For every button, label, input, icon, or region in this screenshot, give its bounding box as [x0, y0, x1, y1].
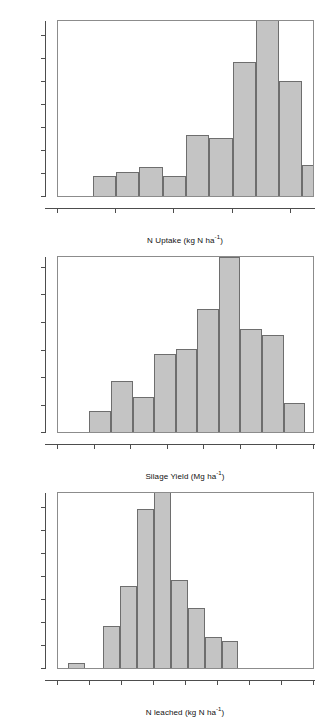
y-axis-line — [45, 257, 46, 433]
bar — [188, 608, 205, 669]
chart-panel-n-uptake: N Uptake (kg N ha-1) — [0, 0, 324, 237]
bar — [93, 176, 116, 197]
x-axis-tick — [94, 445, 95, 449]
y-axis-tick — [41, 127, 45, 128]
x-axis-tick — [57, 681, 58, 685]
x-axis-title: N leached (kg N ha-1) — [37, 706, 324, 717]
plot-area-n-leached: N leached (kg N ha-1) — [0, 474, 324, 711]
y-axis-tick — [41, 507, 45, 508]
bar — [262, 335, 284, 433]
y-axis-line — [45, 493, 46, 669]
y-axis-tick — [41, 35, 45, 36]
y-axis-tick — [41, 576, 45, 577]
y-axis-tick — [41, 150, 45, 151]
bar — [89, 411, 111, 433]
x-axis-tick — [57, 209, 58, 213]
bar — [68, 663, 85, 669]
x-axis-tick — [89, 681, 90, 685]
bar — [133, 397, 155, 433]
bar — [163, 176, 186, 197]
x-axis-line — [45, 444, 315, 445]
bar — [137, 509, 154, 669]
x-axis-tick — [313, 681, 314, 685]
chart-panel-n-leached: N leached (kg N ha-1) — [0, 474, 324, 711]
x-axis-tick — [173, 209, 174, 213]
x-axis-tick — [249, 681, 250, 685]
plot-frame — [57, 20, 314, 197]
x-axis-line — [45, 208, 315, 209]
bar — [176, 349, 198, 433]
bar — [120, 586, 137, 669]
x-axis-tick — [217, 681, 218, 685]
bar — [111, 381, 133, 433]
y-axis-tick — [41, 267, 45, 268]
bar — [240, 329, 262, 433]
bar — [154, 354, 176, 433]
y-axis-tick — [41, 599, 45, 600]
x-axis-title-text: N leached (kg N ha — [146, 708, 216, 717]
y-axis-tick — [41, 432, 45, 433]
bar — [284, 403, 306, 433]
y-axis-tick — [41, 173, 45, 174]
x-axis-tick — [203, 445, 204, 449]
bar — [154, 492, 171, 669]
y-axis-tick — [41, 530, 45, 531]
bar — [233, 62, 256, 197]
chart-panel-silage-yield: Silage Yield (Mg ha-1) — [0, 237, 324, 474]
bar — [116, 172, 139, 198]
y-axis-tick — [41, 294, 45, 295]
x-axis-tick — [121, 681, 122, 685]
y-axis-tick — [41, 622, 45, 623]
bar — [171, 580, 188, 669]
x-axis-tick — [167, 445, 168, 449]
y-axis-line — [45, 21, 46, 197]
x-axis-tick — [276, 445, 277, 449]
plot-area-n-uptake: N Uptake (kg N ha-1) — [0, 0, 324, 237]
bar — [103, 626, 120, 669]
bar — [279, 81, 302, 197]
y-axis-tick — [41, 668, 45, 669]
x-axis-tick — [115, 209, 116, 213]
y-axis-tick — [41, 553, 45, 554]
y-axis-tick — [41, 196, 45, 197]
bar — [256, 20, 279, 197]
bar — [197, 309, 219, 433]
y-axis-tick — [41, 322, 45, 323]
x-axis-tick — [130, 445, 131, 449]
x-axis-line — [45, 680, 315, 681]
bar — [186, 135, 209, 197]
x-axis-tick — [232, 209, 233, 213]
y-axis-tick — [41, 350, 45, 351]
x-axis-tick — [240, 445, 241, 449]
x-axis-tick — [57, 445, 58, 449]
x-axis-tick — [153, 681, 154, 685]
bar — [205, 637, 222, 669]
bar — [219, 257, 241, 433]
x-axis-tick — [313, 445, 314, 449]
x-axis-tick — [290, 209, 291, 213]
y-axis-tick — [41, 377, 45, 378]
y-axis-tick — [41, 58, 45, 59]
y-axis-tick — [41, 405, 45, 406]
x-axis-tick — [185, 681, 186, 685]
x-axis-title-close: ) — [222, 708, 225, 717]
plot-frame — [57, 256, 314, 433]
x-axis-tick — [281, 681, 282, 685]
plot-area-silage-yield: Silage Yield (Mg ha-1) — [0, 237, 324, 474]
bar — [302, 165, 314, 197]
y-axis-tick — [41, 645, 45, 646]
bar — [222, 641, 239, 669]
y-axis-tick — [41, 81, 45, 82]
bar — [139, 167, 162, 197]
bar — [209, 138, 232, 197]
y-axis-tick — [41, 104, 45, 105]
plot-frame — [57, 492, 314, 669]
